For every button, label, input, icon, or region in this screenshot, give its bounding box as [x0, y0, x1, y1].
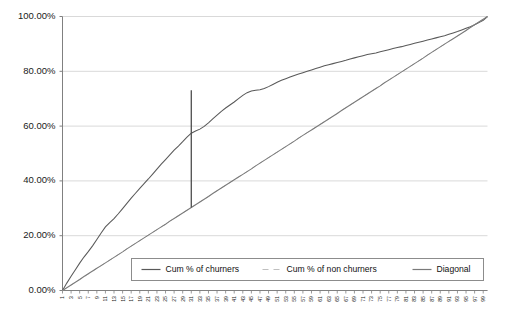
x-tick-label-29: 59	[308, 296, 314, 302]
x-tick-label-45: 91	[446, 296, 452, 302]
x-tick-label-21: 43	[240, 296, 246, 302]
x-tick-label-35: 71	[360, 296, 366, 302]
x-tick-label-20: 41	[231, 296, 237, 302]
x-tick-label-34: 69	[351, 296, 357, 302]
x-tick-label-25: 51	[274, 296, 280, 302]
x-tick-label-39: 79	[394, 296, 400, 302]
legend-label-1: Cum % of non churners	[287, 264, 377, 274]
x-tick-label-40: 81	[403, 296, 409, 302]
x-tick-label-31: 63	[326, 296, 332, 302]
x-tick-label-14: 29	[180, 296, 186, 302]
chart-legend: Cum % of churnersCum % of non churnersDi…	[132, 259, 484, 281]
x-tick-label-24: 49	[265, 296, 271, 302]
y-tick-label-3: 60.00%	[23, 120, 56, 131]
x-tick-label-37: 75	[377, 296, 383, 302]
x-tick-label-38: 77	[386, 296, 392, 302]
x-tick-label-5: 11	[102, 296, 108, 301]
x-tick-label-22: 45	[248, 296, 254, 302]
x-tick-label-0: 1	[59, 296, 65, 299]
x-tick-label-4: 9	[94, 296, 100, 299]
x-tick-label-10: 21	[145, 296, 151, 302]
x-tick-label-7: 15	[120, 296, 126, 302]
y-tick-label-2: 40.00%	[23, 174, 56, 185]
x-tick-label-9: 19	[137, 296, 143, 302]
x-tick-label-42: 85	[420, 296, 426, 302]
x-tick-label-11: 23	[154, 296, 160, 302]
y-tick-label-4: 80.00%	[23, 65, 56, 76]
x-tick-label-17: 35	[205, 296, 211, 302]
x-tick-label-1: 3	[68, 296, 74, 299]
x-tick-label-8: 17	[128, 296, 134, 302]
x-tick-label-15: 31	[188, 296, 194, 302]
x-tick-label-18: 37	[214, 296, 220, 302]
x-tick-label-48: 97	[472, 296, 478, 302]
x-tick-label-27: 55	[291, 296, 297, 302]
chart-container: 0.00%20.00%40.00%60.00%80.00%100.00% 135…	[0, 0, 507, 323]
x-tick-label-44: 89	[437, 296, 443, 302]
x-tick-label-2: 5	[77, 296, 83, 299]
x-tick-label-23: 47	[257, 296, 263, 302]
x-tick-label-28: 57	[300, 296, 306, 302]
x-tick-label-12: 25	[162, 296, 168, 302]
y-tick-label-1: 20.00%	[23, 229, 56, 240]
x-tick-label-33: 67	[343, 296, 349, 302]
x-tick-label-49: 99	[480, 296, 486, 302]
x-tick-label-13: 27	[171, 296, 177, 302]
x-tick-label-43: 87	[429, 296, 435, 302]
x-tick-label-16: 33	[197, 296, 203, 302]
ks-lift-chart: 0.00%20.00%40.00%60.00%80.00%100.00% 135…	[0, 0, 507, 323]
legend-label-0: Cum % of churners	[166, 264, 240, 274]
x-tick-label-47: 95	[463, 296, 469, 302]
x-tick-label-30: 61	[317, 296, 323, 302]
x-tick-label-46: 93	[454, 296, 460, 302]
legend-label-2: Diagonal	[437, 264, 471, 274]
x-tick-label-19: 39	[223, 296, 229, 302]
y-tick-label-0: 0.00%	[29, 284, 56, 295]
y-tick-label-5: 100.00%	[18, 10, 56, 21]
x-tick-label-32: 65	[334, 296, 340, 302]
x-tick-label-26: 53	[283, 296, 289, 302]
x-tick-label-36: 73	[368, 296, 374, 302]
x-tick-label-3: 7	[85, 296, 91, 299]
x-tick-label-41: 83	[411, 296, 417, 302]
x-tick-label-6: 13	[111, 296, 117, 302]
